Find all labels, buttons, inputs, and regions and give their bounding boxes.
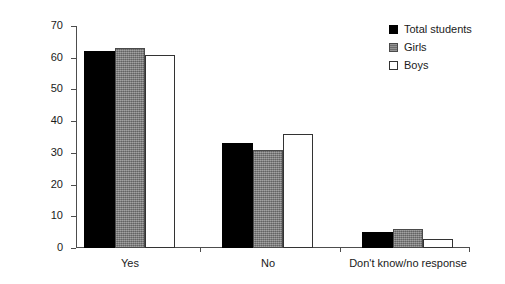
bar-yes-boys <box>145 55 175 249</box>
x-category-label-no: No <box>261 256 275 270</box>
filled-gray-square-icon <box>389 43 398 52</box>
bar-chart: Percentage of respondents 0 10 20 30 40 … <box>0 0 505 284</box>
bar-dont-know-boys <box>423 239 453 249</box>
legend-label-total-students: Total students <box>404 22 472 36</box>
legend-label-girls: Girls <box>404 40 427 54</box>
y-tick-30: 30 <box>71 153 76 154</box>
x-tick-separator-2 <box>340 248 341 252</box>
y-tick-10: 10 <box>71 216 76 217</box>
filled-black-square-icon <box>389 25 398 34</box>
y-tick-label-40: 40 <box>51 113 63 127</box>
y-tick-label-0: 0 <box>57 240 63 254</box>
bar-no-total-students <box>222 143 253 248</box>
y-tick-0: 0 <box>71 248 76 249</box>
bar-no-girls <box>253 150 283 248</box>
outlined-white-square-icon <box>389 61 398 70</box>
y-tick-60: 60 <box>71 58 76 59</box>
y-tick-label-70: 70 <box>51 18 63 32</box>
y-axis-line <box>76 26 77 248</box>
x-category-label-dont-know: Don't know/no response <box>349 256 467 270</box>
x-category-label-yes: Yes <box>121 256 139 270</box>
y-tick-label-20: 20 <box>51 177 63 191</box>
x-tick-end <box>469 248 470 252</box>
bar-yes-total-students <box>84 51 115 248</box>
bar-no-boys <box>283 134 313 248</box>
legend-label-boys: Boys <box>404 58 428 72</box>
bar-dont-know-girls <box>393 229 423 248</box>
chart-legend: Total students Girls Boys <box>389 21 472 75</box>
y-tick-50: 50 <box>71 89 76 90</box>
bar-dont-know-total-students <box>362 232 393 248</box>
y-tick-label-60: 60 <box>51 50 63 64</box>
legend-item-total-students: Total students <box>389 21 472 37</box>
bar-yes-girls <box>115 48 145 248</box>
y-tick-label-50: 50 <box>51 81 63 95</box>
legend-item-girls: Girls <box>389 39 472 55</box>
y-tick-40: 40 <box>71 121 76 122</box>
legend-item-boys: Boys <box>389 57 472 73</box>
y-tick-20: 20 <box>71 185 76 186</box>
y-tick-70: 70 <box>71 26 76 27</box>
x-tick-separator-1 <box>200 248 201 252</box>
y-tick-label-30: 30 <box>51 145 63 159</box>
y-tick-label-10: 10 <box>51 208 63 222</box>
